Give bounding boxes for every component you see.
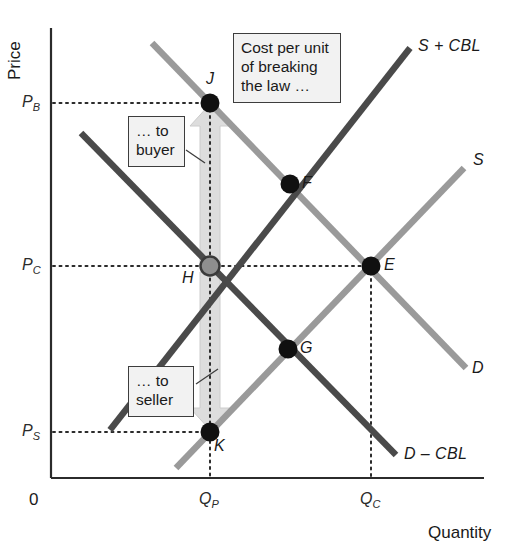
y-tick-pc-sub: C — [33, 264, 41, 276]
callout-buyer-line1: … to — [136, 122, 177, 141]
point-label-h: H — [182, 270, 194, 286]
callout-cbl-line3: the law … — [241, 77, 333, 96]
y-tick-ps-base: P — [22, 422, 33, 439]
y-tick-pb: PB — [22, 94, 40, 110]
y-axis-title: Price — [6, 41, 23, 80]
callout-cbl-line2: of breaking — [241, 58, 333, 77]
y-tick-ps: PS — [22, 423, 40, 439]
point-g-marker[interactable] — [279, 340, 298, 359]
callout-seller-line2: seller — [136, 391, 186, 410]
x-tick-qc: QC — [360, 491, 380, 507]
y-tick-pb-base: P — [22, 93, 33, 110]
x-tick-qc-base: Q — [360, 490, 372, 507]
origin-label: 0 — [29, 491, 38, 508]
callout-to-buyer: … to buyer — [128, 116, 185, 167]
curve-label-d-minus-cbl: D – CBL — [404, 446, 467, 462]
callout-cost-of-breaking-law: Cost per unit of breaking the law … — [233, 33, 341, 103]
point-label-e: E — [384, 257, 395, 273]
supply-demand-chart: Price Quantity 0 PB PC PS QP QC J F H E … — [0, 0, 514, 554]
point-h-marker[interactable] — [201, 257, 220, 276]
x-tick-qp: QP — [199, 491, 219, 507]
point-e-marker[interactable] — [362, 257, 381, 276]
y-tick-pc: PC — [22, 257, 41, 273]
point-f-marker[interactable] — [281, 175, 300, 194]
callout-seller-line1: … to — [136, 372, 186, 391]
x-tick-qp-base: Q — [199, 490, 211, 507]
x-axis-title: Quantity — [428, 524, 491, 541]
y-tick-pc-base: P — [22, 256, 33, 273]
point-j-marker[interactable] — [201, 94, 220, 113]
callout-cbl-line1: Cost per unit — [241, 39, 333, 58]
x-tick-qp-sub: P — [211, 498, 218, 510]
y-tick-pb-sub: B — [33, 101, 40, 113]
callout-buyer-line2: buyer — [136, 141, 177, 160]
point-label-k: K — [214, 438, 225, 454]
curve-label-d: D — [472, 360, 484, 376]
curve-label-s-plus-cbl: S + CBL — [418, 38, 481, 54]
point-label-f: F — [302, 175, 312, 191]
callout-to-seller: … to seller — [128, 366, 194, 417]
y-tick-ps-sub: S — [33, 430, 40, 442]
x-tick-qc-sub: C — [372, 498, 380, 510]
point-label-g: G — [300, 340, 312, 356]
point-label-j: J — [206, 71, 214, 87]
curve-label-s: S — [473, 152, 484, 168]
